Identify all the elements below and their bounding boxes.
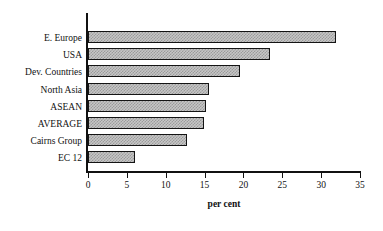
bar-fill — [88, 117, 204, 129]
bar-ec-12 — [88, 151, 135, 163]
category-label: USA — [0, 49, 82, 61]
category-label: Dev. Countries — [0, 66, 82, 78]
x-tick-mark — [282, 173, 283, 178]
bar-north-asia — [88, 83, 209, 95]
x-tick-label: 10 — [154, 179, 178, 191]
x-tick-label: 35 — [348, 179, 372, 191]
x-tick-label: 30 — [309, 179, 333, 191]
category-label: AVERAGE — [0, 118, 82, 130]
x-tick-mark — [243, 173, 244, 178]
category-label: E. Europe — [0, 32, 82, 44]
bar-usa — [88, 48, 270, 60]
bar-fill — [88, 151, 135, 163]
x-tick-label: 20 — [231, 179, 255, 191]
category-label: North Asia — [0, 84, 82, 96]
x-tick-mark — [166, 173, 167, 178]
bar-fill — [88, 100, 206, 112]
x-tick-label: 15 — [193, 179, 217, 191]
x-tick-mark — [360, 173, 361, 178]
category-label: Cairns Group — [0, 135, 82, 147]
bar-fill — [88, 65, 240, 77]
x-tick-label: 5 — [115, 179, 139, 191]
bar-cairns-group — [88, 134, 187, 146]
bar-fill — [88, 31, 336, 43]
x-tick-mark — [127, 173, 128, 178]
bar-e-europe — [88, 31, 336, 43]
x-tick-label: 0 — [76, 179, 100, 191]
x-tick-mark — [88, 173, 89, 178]
category-label: ASEAN — [0, 101, 82, 113]
bar-asean — [88, 100, 206, 112]
category-label: EC 12 — [0, 152, 82, 164]
bar-fill — [88, 48, 270, 60]
bar-average — [88, 117, 204, 129]
bar-fill — [88, 83, 209, 95]
bar-fill — [88, 134, 187, 146]
x-tick-mark — [321, 173, 322, 178]
bar-dev-countries — [88, 65, 240, 77]
x-axis-title: per cent — [88, 198, 360, 210]
x-tick-mark — [205, 173, 206, 178]
bar-chart: E. EuropeUSADev. CountriesNorth AsiaASEA… — [0, 0, 383, 231]
x-tick-label: 25 — [270, 179, 294, 191]
